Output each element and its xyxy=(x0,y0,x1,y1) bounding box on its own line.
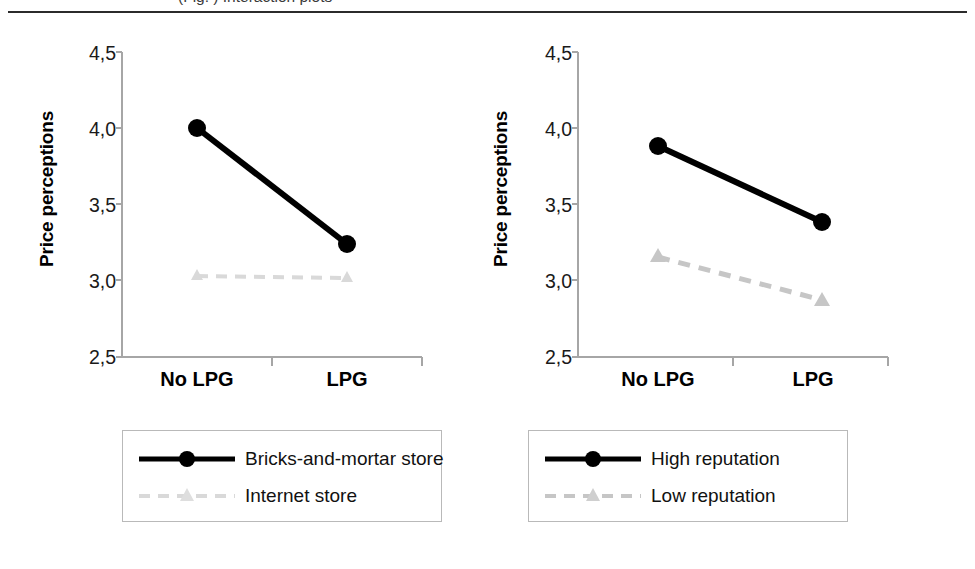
legend-label-bricks-and-mortar: Bricks-and-mortar store xyxy=(239,448,444,470)
legend-item-internet-store: Internet store xyxy=(135,477,427,514)
axis-lines-right xyxy=(572,52,888,366)
legend-label-low-reputation: Low reputation xyxy=(645,485,776,507)
legend-swatch-dashed-triangle-icon xyxy=(541,485,645,507)
caption-text: (Fig. ) Interaction plots xyxy=(178,0,332,6)
legend-label-internet-store: Internet store xyxy=(239,485,357,507)
legend-label-high-reputation: High reputation xyxy=(645,448,780,470)
axis-lines-left xyxy=(116,52,422,366)
plot-area-right xyxy=(470,18,940,418)
figure-panels: Price perceptions 4,5 4,0 3,5 3,0 2,5 xyxy=(0,18,975,558)
plot-svg-left xyxy=(8,18,478,418)
x-tick-left-0: No LPG xyxy=(117,368,277,391)
plot-svg-right xyxy=(470,18,940,418)
legend-item-low-reputation: Low reputation xyxy=(541,477,833,514)
legend-right: High reputation Low reputation xyxy=(528,430,848,522)
chart-panel-left: Price perceptions 4,5 4,0 3,5 3,0 2,5 xyxy=(8,18,478,548)
header-rule xyxy=(8,11,967,13)
legend-swatch-dashed-triangle-icon xyxy=(135,485,239,507)
x-tick-right-0: No LPG xyxy=(578,368,738,391)
x-tick-left-1: LPG xyxy=(267,368,427,391)
caption-fragment: (Fig. ) Interaction plots xyxy=(0,0,975,9)
series-low-reputation-right xyxy=(650,248,830,306)
plot-area-left xyxy=(8,18,478,418)
legend-left: Bricks-and-mortar store Internet store xyxy=(122,430,442,522)
x-tick-right-1: LPG xyxy=(733,368,893,391)
legend-item-bricks-and-mortar: Bricks-and-mortar store xyxy=(135,440,427,477)
series-bricks-and-mortar-left xyxy=(188,119,356,253)
legend-swatch-solid-circle-icon xyxy=(541,448,645,470)
legend-item-high-reputation: High reputation xyxy=(541,440,833,477)
legend-swatch-solid-circle-icon xyxy=(135,448,239,470)
series-internet-store-left xyxy=(191,269,353,282)
series-high-reputation-right xyxy=(649,137,831,231)
chart-panel-right: Price perceptions 4,5 4,0 3,5 3,0 2,5 xyxy=(470,18,940,548)
